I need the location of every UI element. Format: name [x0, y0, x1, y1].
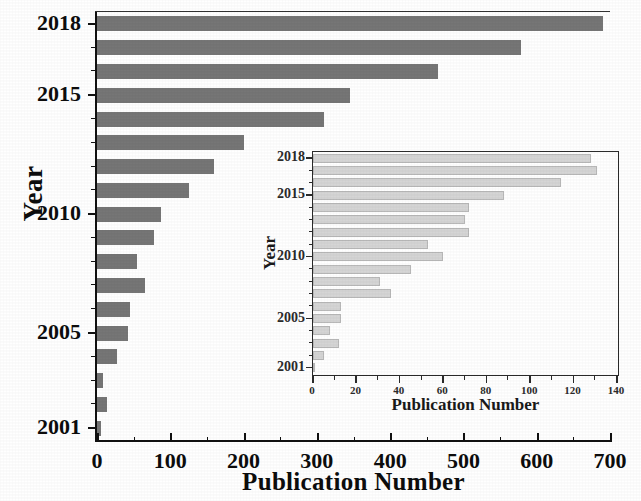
main-chart-x-axis-label: Publication Number	[97, 468, 610, 496]
bar	[313, 252, 443, 261]
y-axis-minor-tick	[91, 237, 96, 238]
y-axis-minor-tick	[309, 305, 313, 306]
bar	[97, 88, 350, 103]
x-axis-minor-tick	[334, 376, 335, 380]
y-axis-minor-tick	[309, 330, 313, 331]
x-axis-minor-tick	[551, 376, 552, 380]
x-axis-minor-tick	[573, 437, 574, 442]
x-axis-minor-tick	[354, 437, 355, 442]
x-axis-tick	[97, 433, 99, 442]
x-axis-minor-tick	[134, 437, 135, 442]
y-axis-tick	[88, 94, 96, 96]
y-axis-minor-tick	[91, 47, 96, 48]
x-axis-tick	[399, 376, 401, 383]
bar	[313, 228, 469, 237]
bar	[313, 326, 330, 335]
y-axis-minor-tick	[91, 356, 96, 357]
y-axis-tick	[306, 157, 313, 159]
bar	[313, 339, 339, 348]
bar	[313, 289, 391, 298]
inset-chart-x-axis-label: Publication Number	[312, 395, 619, 415]
x-axis-tick	[312, 376, 314, 383]
y-axis-minor-tick	[309, 293, 313, 294]
inset-chart: Year 20012005201020152018 02040608010012…	[252, 143, 637, 428]
bar	[97, 159, 214, 174]
y-axis-tick-label: 2018	[257, 149, 305, 165]
y-axis-minor-tick	[91, 380, 96, 381]
y-axis-tick-label: 2018	[0, 10, 81, 36]
x-axis-minor-tick	[594, 376, 595, 380]
x-axis-minor-tick	[207, 437, 208, 442]
y-axis-minor-tick	[91, 261, 96, 262]
bar	[97, 278, 145, 293]
y-axis-minor-tick	[309, 219, 313, 220]
bar	[313, 265, 411, 274]
publication-number-figure: Year 20012005201020152018 01002003004005…	[0, 0, 641, 501]
y-axis-tick	[88, 332, 96, 334]
y-axis-minor-tick	[309, 207, 313, 208]
bar	[97, 349, 117, 364]
bar	[97, 230, 154, 245]
y-axis-tick-label: 2001	[0, 414, 81, 440]
y-axis-minor-tick	[91, 189, 96, 190]
y-axis-minor-tick	[309, 268, 313, 269]
bar	[97, 302, 130, 317]
y-axis-tick	[88, 23, 96, 25]
y-axis-tick	[306, 367, 313, 369]
bar	[97, 16, 603, 31]
bar	[97, 135, 244, 150]
x-axis-minor-tick	[280, 437, 281, 442]
y-axis-minor-tick	[309, 281, 313, 282]
y-axis-tick	[306, 256, 313, 258]
main-chart-top-spine	[95, 11, 610, 12]
bar	[313, 191, 504, 200]
x-axis-minor-tick	[421, 376, 422, 380]
x-axis-tick	[355, 376, 357, 383]
x-axis-tick	[529, 376, 531, 383]
bar	[97, 112, 324, 127]
y-axis-tick-label: 2005	[257, 310, 305, 326]
bar	[313, 154, 591, 163]
y-axis-minor-tick	[309, 244, 313, 245]
bar	[313, 240, 428, 249]
x-axis-minor-tick	[464, 376, 465, 380]
x-axis-tick	[610, 433, 612, 442]
y-axis-minor-tick	[91, 118, 96, 119]
bar	[313, 302, 341, 311]
y-axis-tick-label: 2010	[0, 200, 81, 226]
y-axis-tick	[306, 318, 313, 320]
y-axis-minor-tick	[91, 142, 96, 143]
x-axis-minor-tick	[500, 437, 501, 442]
x-axis-tick	[170, 433, 172, 442]
y-axis-minor-tick	[309, 355, 313, 356]
y-axis-tick-label: 2001	[257, 359, 305, 375]
y-axis-tick	[88, 213, 96, 215]
x-axis-tick	[537, 433, 539, 442]
bar	[97, 254, 137, 269]
x-axis-minor-tick	[507, 376, 508, 380]
y-axis-minor-tick	[91, 70, 96, 71]
bar	[97, 326, 128, 341]
y-axis-minor-tick	[309, 342, 313, 343]
y-axis-tick-label: 2005	[0, 319, 81, 345]
x-axis-tick	[244, 433, 246, 442]
bar	[97, 397, 107, 412]
x-axis-minor-tick	[377, 376, 378, 380]
bar	[313, 166, 597, 175]
y-axis-minor-tick	[309, 170, 313, 171]
inset-chart-plot-area: 20012005201020152018	[312, 151, 619, 376]
y-axis-tick-label: 2015	[257, 186, 305, 202]
x-axis-tick	[616, 376, 618, 383]
x-axis-minor-tick	[427, 437, 428, 442]
main-chart-y-axis-label: Year	[18, 139, 49, 249]
bar	[97, 207, 161, 222]
y-axis-tick	[306, 194, 313, 196]
y-axis-minor-tick	[309, 182, 313, 183]
y-axis-minor-tick	[91, 403, 96, 404]
x-axis-tick	[486, 376, 488, 383]
y-axis-tick	[88, 427, 96, 429]
bar	[97, 373, 103, 388]
bar	[313, 314, 341, 323]
y-axis-minor-tick	[91, 308, 96, 309]
y-axis-minor-tick	[309, 231, 313, 232]
